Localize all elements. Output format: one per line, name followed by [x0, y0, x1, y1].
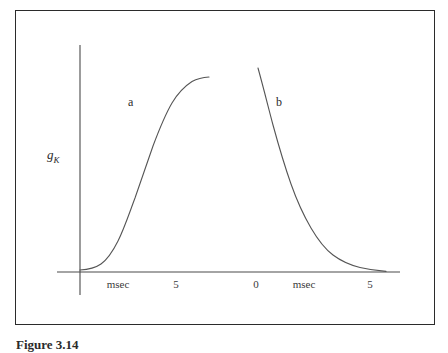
right-axis-tick-msec: msec — [286, 278, 322, 290]
right-axis-tick-5: 5 — [362, 278, 378, 290]
curve-a-path — [80, 77, 209, 270]
curve-a-label: a — [128, 95, 133, 110]
y-axis-label: gK — [47, 147, 60, 165]
right-axis-tick-0: 0 — [248, 278, 264, 290]
figure-caption: Figure 3.14 — [16, 337, 79, 353]
left-axis-tick-5: 5 — [168, 278, 184, 290]
y-axis-label-subscript: K — [54, 155, 60, 165]
curve-b-label: b — [276, 95, 282, 110]
left-axis-tick-msec: msec — [100, 278, 136, 290]
